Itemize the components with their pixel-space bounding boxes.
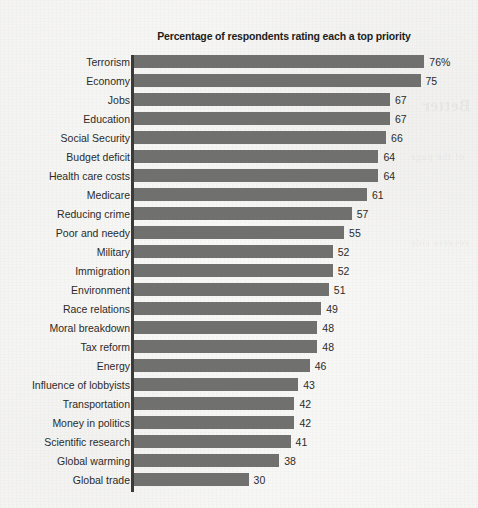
bar <box>134 473 249 486</box>
bar <box>134 131 386 144</box>
bar-row: Jobs67 <box>0 93 478 112</box>
bar-value-label: 57 <box>357 208 369 221</box>
category-label: Moral breakdown <box>49 322 130 335</box>
bar-value-label: 41 <box>296 436 308 449</box>
bar-row: Moral breakdown48 <box>0 321 478 340</box>
bar-row: Immigration52 <box>0 264 478 283</box>
bar-row: Social Security66 <box>0 131 478 150</box>
bar-value-label: 64 <box>383 151 395 164</box>
bar-chart: Percentage of respondents rating each a … <box>0 0 478 508</box>
bar <box>134 454 279 467</box>
bar <box>134 55 424 68</box>
bar-value-label: 38 <box>284 455 296 468</box>
category-label: Education <box>83 113 130 126</box>
bar-value-label: 43 <box>303 379 315 392</box>
bar-value-label: 55 <box>349 227 361 240</box>
bar-value-label: 52 <box>338 246 350 259</box>
bar-value-label: 61 <box>372 189 384 202</box>
category-label: Poor and needy <box>56 227 130 240</box>
bar <box>134 397 294 410</box>
bar-value-label: 67 <box>395 94 407 107</box>
category-label: Reducing crime <box>57 208 130 221</box>
bar-row: Money in politics42 <box>0 416 478 435</box>
bar-value-label: 64 <box>383 170 395 183</box>
category-label: Medicare <box>87 189 130 202</box>
bar-row: Global trade30 <box>0 473 478 492</box>
bar <box>134 188 367 201</box>
bar <box>134 435 291 448</box>
bar-value-label: 30 <box>254 474 266 487</box>
bar <box>134 150 378 163</box>
bar-row: Military52 <box>0 245 478 264</box>
category-label: Environment <box>71 284 130 297</box>
bar <box>134 283 329 296</box>
bar-row: Health care costs64 <box>0 169 478 188</box>
category-label: Global trade <box>73 474 130 487</box>
category-label: Immigration <box>75 265 130 278</box>
category-label: Budget deficit <box>66 151 130 164</box>
category-label: Transportation <box>63 398 130 411</box>
chart-title: Percentage of respondents rating each a … <box>134 30 434 42</box>
category-label: Military <box>97 246 130 259</box>
bar <box>134 112 390 125</box>
bar-row: Race relations49 <box>0 302 478 321</box>
category-label: Health care costs <box>49 170 130 183</box>
category-label: Terrorism <box>86 56 130 69</box>
category-label: Social Security <box>61 132 130 145</box>
bar-row: Budget deficit64 <box>0 150 478 169</box>
bar-row: Influence of lobbyists43 <box>0 378 478 397</box>
category-label: Economy <box>86 75 130 88</box>
category-label: Tax reform <box>80 341 130 354</box>
category-label: Influence of lobbyists <box>32 379 130 392</box>
bar-value-label: 75 <box>426 75 438 88</box>
bar-row: Medicare61 <box>0 188 478 207</box>
bar-row: Transportation42 <box>0 397 478 416</box>
bar-row: Scientific research41 <box>0 435 478 454</box>
bar-row: Poor and needy55 <box>0 226 478 245</box>
bar-value-label: 48 <box>322 341 334 354</box>
bar <box>134 302 321 315</box>
bar-row: Global warming38 <box>0 454 478 473</box>
bar <box>134 169 378 182</box>
bar <box>134 321 317 334</box>
bar-value-label: 42 <box>299 417 311 430</box>
bar-value-label: 51 <box>334 284 346 297</box>
plot-area: Terrorism76%Economy75Jobs67Education67So… <box>0 55 478 492</box>
bar <box>134 416 294 429</box>
bar <box>134 207 352 220</box>
bar <box>134 378 298 391</box>
bar-row: Reducing crime57 <box>0 207 478 226</box>
bar-rows: Terrorism76%Economy75Jobs67Education67So… <box>0 55 478 492</box>
category-label: Money in politics <box>52 417 130 430</box>
bar <box>134 264 333 277</box>
bar-row: Terrorism76% <box>0 55 478 74</box>
bar-value-label: 66 <box>391 132 403 145</box>
category-label: Global warming <box>57 455 130 468</box>
bar-row: Energy46 <box>0 359 478 378</box>
bar-value-label: 46 <box>315 360 327 373</box>
bar <box>134 359 310 372</box>
bar <box>134 340 317 353</box>
bar-value-label: 52 <box>338 265 350 278</box>
category-label: Scientific research <box>44 436 130 449</box>
category-label: Jobs <box>108 94 130 107</box>
bar-value-label: 67 <box>395 113 407 126</box>
bar-value-label: 48 <box>322 322 334 335</box>
bar-row: Environment51 <box>0 283 478 302</box>
bar-value-label: 76% <box>429 56 450 69</box>
bar <box>134 245 333 258</box>
bar-row: Economy75 <box>0 74 478 93</box>
category-label: Energy <box>97 360 130 373</box>
bar <box>134 226 344 239</box>
category-label: Race relations <box>63 303 130 316</box>
bar <box>134 93 390 106</box>
bar-row: Education67 <box>0 112 478 131</box>
bar-value-label: 49 <box>326 303 338 316</box>
bar <box>134 74 421 87</box>
bar-value-label: 42 <box>299 398 311 411</box>
bar-row: Tax reform48 <box>0 340 478 359</box>
